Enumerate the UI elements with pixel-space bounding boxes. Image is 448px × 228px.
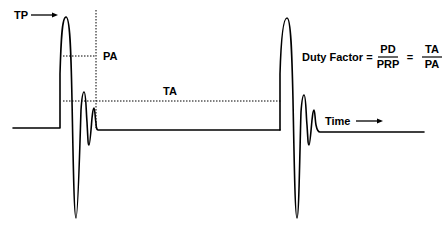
formula-pd: PD (380, 43, 395, 55)
formula-pa: PA (425, 58, 440, 70)
duty-factor-formula: Duty Factor = PD PRP = TA PA (302, 43, 442, 70)
formula-prp: PRP (377, 58, 400, 70)
tp-label: TP (14, 9, 28, 21)
formula-equals: = (407, 51, 413, 63)
tp-arrow-head-icon (52, 13, 58, 18)
pulse-1 (13, 17, 280, 218)
pulse-waveform (13, 17, 424, 218)
guide-lines (63, 10, 281, 128)
time-annotation: Time (325, 115, 383, 127)
duty-factor-diagram: TP PA TA Time Duty Factor = PD PRP = TA … (0, 0, 448, 228)
time-arrow-head-icon (377, 119, 383, 124)
tp-annotation: TP (14, 9, 58, 21)
pa-label: PA (103, 50, 118, 62)
formula-ta: TA (425, 43, 439, 55)
pulse-2 (280, 18, 424, 218)
time-label: Time (325, 115, 350, 127)
ta-label: TA (163, 85, 177, 97)
formula-lhs: Duty Factor = (302, 51, 373, 63)
